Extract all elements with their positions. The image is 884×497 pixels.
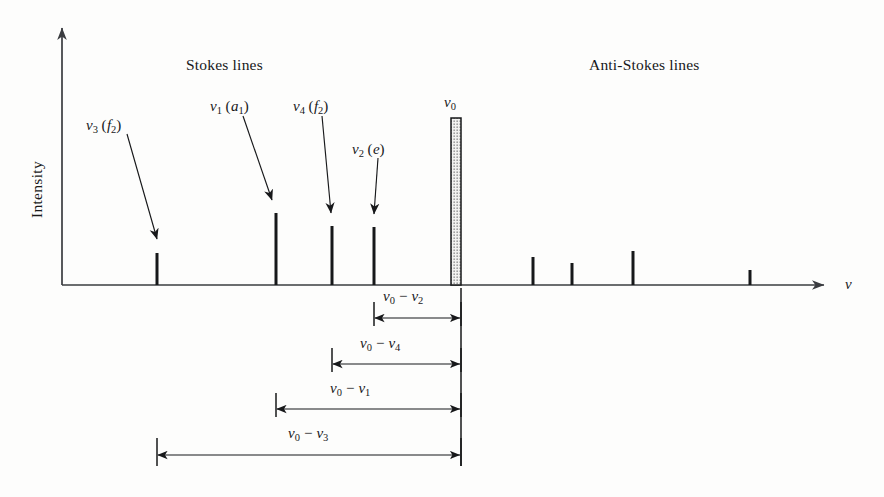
peak-label-nu0: ν0	[444, 95, 456, 113]
peak-label-nu1: ν1 (a1)	[210, 99, 249, 117]
exciting-line-bar	[451, 118, 461, 285]
dimension-label-d_nu0_nu3: ν0−ν3	[288, 426, 328, 444]
peak-label-nu4: ν4 (f2)	[293, 99, 328, 117]
label-leader-line	[374, 158, 378, 214]
figure-canvas	[0, 0, 884, 497]
stokes-lines-heading: Stokes lines	[186, 57, 263, 73]
dimension-label-d_nu0_nu4: ν0−ν4	[360, 336, 400, 354]
anti-stokes-lines-heading: Anti-Stokes lines	[589, 57, 700, 73]
x-axis-label: ν	[845, 277, 852, 292]
axis-group	[62, 28, 824, 285]
peak-label-nu3: ν3 (f2)	[86, 118, 121, 136]
raman-spectrum-figure: Intensity ν Stokes lines Anti-Stokes lin…	[0, 0, 884, 497]
label-leader-line	[127, 134, 157, 239]
y-axis-label: Intensity	[28, 161, 46, 218]
exciting-line-group	[451, 118, 461, 285]
dimension-label-d_nu0_nu2: ν0−ν2	[383, 289, 423, 307]
label-leader-line	[322, 116, 331, 213]
peak-label-nu2: ν2 (e)	[352, 142, 385, 160]
dimension-label-d_nu0_nu1: ν0−ν1	[330, 381, 370, 399]
label-leader-line	[243, 116, 272, 200]
label-leaders-group	[127, 116, 378, 239]
